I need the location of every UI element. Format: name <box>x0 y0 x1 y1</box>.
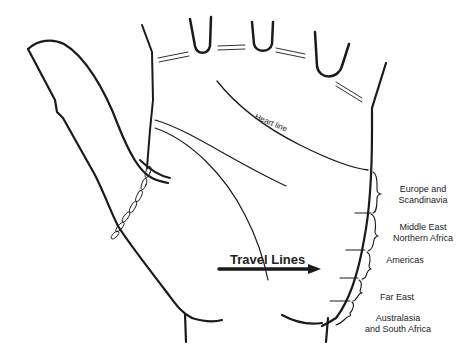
arrow-right-icon <box>308 264 321 274</box>
finger-middle <box>252 22 273 51</box>
wrist-left <box>192 318 222 321</box>
palm-left-edge <box>142 25 153 168</box>
region-label-australasia: Australasia and South Africa <box>350 313 446 335</box>
head-line <box>155 120 286 186</box>
hand-outline-drawing <box>0 0 472 359</box>
region-label-middle-east: Middle East Northern Africa <box>383 222 463 244</box>
heart-line <box>217 81 368 170</box>
finger-index <box>190 17 211 53</box>
wrist-right <box>282 315 322 324</box>
chain-line <box>110 166 152 240</box>
travel-line-ticks <box>330 213 371 301</box>
region-label-americas: Americas <box>380 255 430 266</box>
palm-right-edge <box>322 63 386 326</box>
palm-diagram: Heart line Travel Lines Europe and Scand… <box>0 0 472 359</box>
wrist-right-stem <box>326 318 328 342</box>
travel-lines-label: Travel Lines <box>230 252 305 267</box>
finger-ring <box>315 32 349 77</box>
region-label-europe: Europe and Scandinavia <box>389 184 457 206</box>
wrist-left-stem <box>185 314 186 342</box>
region-label-far-east: Far East <box>372 292 422 303</box>
